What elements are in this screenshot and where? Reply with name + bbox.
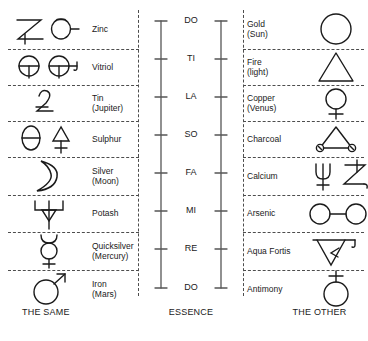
copper-venus-symbol [307,86,364,120]
arsenic-symbol [307,199,368,229]
label-arsenic: Arsenic [243,208,307,219]
row-aqua-fortis: Aqua Fortis [243,232,364,270]
label-aqua-fortis: Aqua Fortis [243,246,307,257]
row-arsenic: Arsenic [243,195,364,232]
column-essence: DO TI LA SO FA MI RE DO ESSENCE [139,0,243,341]
row-zinc: Zinc [8,10,139,48]
essence-note-do-low: DO [139,282,243,292]
label-tin: Tin (Jupiter) [90,93,139,114]
vitriol-symbol [8,52,90,82]
footer-the-same: THE SAME [8,307,153,317]
essence-scale-rules [139,0,243,300]
row-iron: Iron (Mars) [8,270,139,308]
row-charcoal: Charcoal [243,121,364,157]
essence-note-so: SO [139,129,243,139]
label-iron: Iron (Mars) [90,279,139,300]
label-calcium: Calcium [243,171,307,182]
row-vitriol: Vitriol [8,49,139,85]
row-potash: Potash [8,195,139,232]
label-vitriol: Vitriol [90,62,139,73]
iron-mars-symbol [8,271,90,307]
tin-jupiter-symbol [8,87,90,119]
label-gold: Gold (Sun) [243,19,307,40]
row-silver: Silver (Moon) [8,157,139,195]
antimony-symbol [307,270,364,308]
essence-note-do-high: DO [139,15,243,25]
essence-note-ti: TI [139,53,243,63]
label-potash: Potash [90,208,139,219]
aqua-fortis-symbol [307,234,365,268]
row-sulphur: Sulphur [8,121,139,157]
row-quicksilver: Quicksilver (Mercury) [8,232,139,270]
label-charcoal: Charcoal [243,134,307,145]
row-tin: Tin (Jupiter) [8,85,139,121]
gold-sun-symbol [307,11,364,47]
essence-note-re: RE [139,243,243,253]
calcium-symbol [307,158,368,194]
label-zinc: Zinc [90,24,139,35]
column-the-other: Gold (Sun) Fire (light) [243,0,364,341]
essence-note-fa: FA [139,167,243,177]
row-copper: Copper (Venus) [243,85,364,121]
footer-essence: ESSENCE [139,307,243,317]
fire-light-symbol [307,50,364,84]
sulphur-symbol [8,123,90,155]
label-fire: Fire (light) [243,57,307,78]
silver-moon-symbol [8,158,90,194]
row-calcium: Calcium [243,157,364,195]
essence-note-mi: MI [139,205,243,215]
row-antimony: Antimony [243,270,364,308]
label-antimony: Antimony [243,284,307,295]
quicksilver-mercury-symbol [8,233,90,269]
alchemical-symbol-diagram: Zinc Vitriol [0,0,368,341]
potash-symbol [8,197,90,231]
label-copper: Copper (Venus) [243,93,307,114]
row-fire: Fire (light) [243,49,364,85]
charcoal-symbol [307,123,364,155]
label-sulphur: Sulphur [90,134,139,145]
essence-note-la: LA [139,91,243,101]
label-silver: Silver (Moon) [90,166,139,187]
footer-the-other: THE OTHER [243,307,368,317]
column-the-same: Zinc Vitriol [8,0,139,341]
row-gold: Gold (Sun) [243,10,364,48]
label-quicksilver: Quicksilver (Mercury) [90,241,139,262]
zinc-symbol [8,12,90,46]
